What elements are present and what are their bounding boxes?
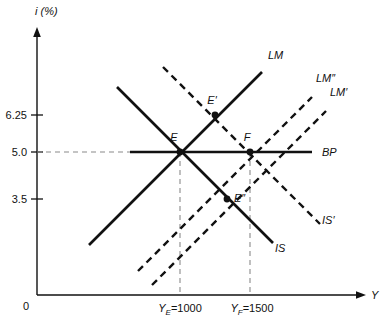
x-axis-title: Y xyxy=(371,289,379,301)
curve-label-bp: BP xyxy=(322,146,337,158)
point-marker-F xyxy=(247,149,254,156)
point-label-F: F xyxy=(244,131,252,143)
equilibrium-point-group: E E′ F E″ xyxy=(170,94,253,204)
curve-label-is: IS xyxy=(275,242,286,254)
y-axis-arrowhead xyxy=(33,27,41,37)
y-axis-title: i (%) xyxy=(35,5,58,17)
point-marker-E-prime xyxy=(212,112,219,119)
curve-label-is-prime: IS′ xyxy=(322,214,335,226)
y-tick-label-6.25: 6.25 xyxy=(6,109,27,121)
x-tick-value-1500: =1500 xyxy=(243,302,274,314)
point-label-E: E xyxy=(170,131,178,143)
point-marker-E xyxy=(177,149,184,156)
point-label-E-prime: E′ xyxy=(207,94,217,106)
point-label-E-double-prime: E″ xyxy=(234,192,246,204)
x-tick-label-yf: YF=1500 xyxy=(230,302,273,317)
x-axis-arrowhead xyxy=(356,291,366,299)
y-tick-label-5.0: 5.0 xyxy=(12,146,27,158)
origin-label: 0 xyxy=(23,300,29,312)
curve-label-lm: LM xyxy=(268,49,284,61)
x-tick-label-group: YE=1000 YF=1500 xyxy=(158,302,273,317)
is-lm-bp-diagram: i (%) Y 0 6.25 5.0 3.5 LM LM″ LM′ BP IS … xyxy=(0,0,391,321)
y-tick-label-3.5: 3.5 xyxy=(12,193,27,205)
x-tick-value-1000: =1000 xyxy=(171,302,202,314)
guide-line-group xyxy=(37,152,250,295)
curve-lm-double-prime xyxy=(138,97,312,271)
curve-label-lm-prime: LM′ xyxy=(330,86,348,98)
curve-lm xyxy=(89,72,262,245)
curve-label-lm-double-prime: LM″ xyxy=(316,72,336,84)
point-marker-E-double-prime xyxy=(224,196,231,203)
x-tick-label-ye: YE=1000 xyxy=(158,302,202,317)
axis-group xyxy=(33,27,366,299)
